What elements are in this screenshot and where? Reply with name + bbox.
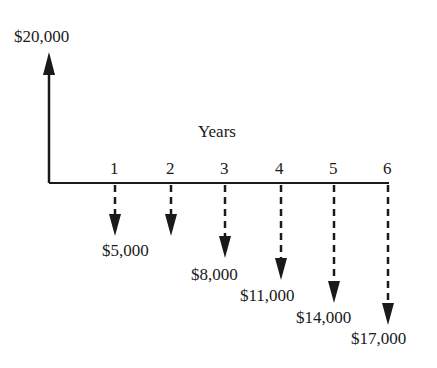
outflow-arrow-3 (219, 185, 231, 258)
period-label-6: 6 (383, 160, 392, 177)
outflow-label-5: $14,000 (296, 309, 351, 326)
outflow-arrow-2 (165, 185, 177, 236)
outflow-label-4: $11,000 (240, 287, 295, 304)
outflow-arrow-4 (275, 185, 287, 280)
outflow-arrow-5 (328, 185, 340, 303)
outflow-arrow-1 (109, 185, 121, 236)
period-label-4: 4 (275, 160, 284, 177)
period-label-5: 5 (329, 160, 338, 177)
period-label-2: 2 (166, 160, 175, 177)
outflow-label-6: $17,000 (351, 330, 406, 347)
period-label-3: 3 (220, 160, 229, 177)
inflow-label: $20,000 (14, 28, 69, 45)
outflow-label-3: $8,000 (191, 266, 238, 283)
period-label-1: 1 (110, 160, 119, 177)
cash-flow-diagram (0, 0, 437, 368)
outflow-label-1: $5,000 (102, 242, 149, 259)
inflow-arrow-head (43, 52, 55, 75)
axis-label: Years (198, 123, 236, 140)
outflow-arrow-6 (382, 185, 394, 325)
